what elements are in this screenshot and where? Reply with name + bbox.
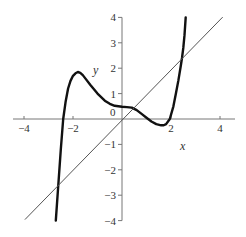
y-tick-label: −4 <box>104 215 116 227</box>
y-tick-label: −2 <box>104 164 116 176</box>
origin-label: 0 <box>110 106 116 118</box>
y-axis-label: y <box>92 63 99 77</box>
x-tick-label: 2 <box>168 122 174 134</box>
axes <box>13 17 235 220</box>
y-tick-label: 1 <box>111 88 117 100</box>
y-tick-label: 4 <box>111 11 117 23</box>
y-tick-label: −1 <box>104 138 116 150</box>
function-plot: −4−224−4−3−2−11234 x y 0 <box>0 0 246 237</box>
y-tick-label: 2 <box>111 62 117 74</box>
y-tick-label: 3 <box>111 37 117 49</box>
identity-line <box>25 17 222 219</box>
x-axis-label: x <box>179 139 186 153</box>
x-tick-label: −4 <box>18 122 30 134</box>
x-tick-label: 4 <box>217 122 223 134</box>
y-tick-label: −3 <box>104 189 116 201</box>
x-tick-label: −2 <box>67 122 79 134</box>
